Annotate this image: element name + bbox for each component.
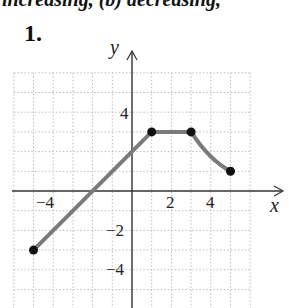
function-graph: x y −4 2 4 4 −2 −4	[0, 0, 289, 308]
data-point	[226, 167, 235, 176]
data-point	[147, 127, 156, 136]
x-tick-label: 4	[206, 193, 215, 212]
y-tick-label: −4	[106, 260, 125, 279]
y-tick-label: −2	[106, 221, 124, 240]
data-point	[187, 127, 196, 136]
y-tick-label: 4	[120, 104, 129, 123]
x-tick-label: 2	[166, 193, 175, 212]
x-axis-label: x	[269, 194, 279, 216]
x-tick-label: −4	[36, 193, 55, 212]
data-point	[29, 246, 38, 255]
y-axis-label: y	[108, 36, 119, 59]
